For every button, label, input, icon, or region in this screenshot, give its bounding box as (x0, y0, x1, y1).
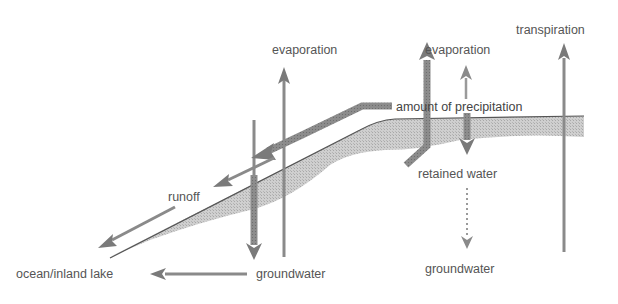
groundwater-to-ocean-arrow (150, 268, 247, 280)
evaporation-right-arrow (460, 65, 472, 99)
label-runoff: runoff (168, 191, 200, 204)
label-groundwater-left: groundwater (256, 268, 326, 281)
ground-surface-line (110, 116, 584, 258)
retained-to-groundwater-dotted-arrow (461, 188, 473, 249)
evaporation-left-arrow (278, 67, 290, 257)
label-retained-water: retained water (418, 168, 497, 181)
label-transpiration: transpiration (516, 24, 585, 37)
label-evaporation-left: evaporation (272, 44, 337, 57)
label-evaporation-right: evaporation (425, 44, 490, 57)
label-amount-of-precipitation: amount of precipitation (396, 101, 522, 114)
transpiration-thin-arrow (558, 43, 570, 252)
label-groundwater-right: groundwater (425, 263, 495, 276)
runoff-lower-arrow (98, 207, 175, 248)
label-ocean-inland-lake: ocean/inland lake (16, 268, 113, 281)
